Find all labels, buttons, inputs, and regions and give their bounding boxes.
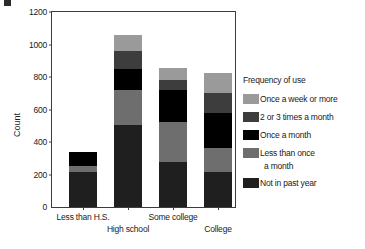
legend-swatch — [243, 94, 259, 104]
legend-label: Once a week or more — [260, 94, 337, 104]
bar-segment — [69, 172, 97, 207]
bar-some-college — [159, 68, 187, 207]
legend-label: Once a month — [260, 130, 311, 140]
y-tick-mark — [49, 142, 52, 143]
bar-segment — [114, 51, 142, 69]
chart-root: Count 020040060080010001200Less than H.S… — [0, 0, 365, 249]
x-tick-label: Some college — [148, 213, 197, 222]
y-tick-mark — [49, 12, 52, 13]
legend-item-list: Once a week or more2 or 3 times a monthO… — [243, 94, 363, 189]
bar-segment — [204, 93, 232, 113]
legend-label: Less than once — [260, 148, 315, 158]
bar-segment — [204, 172, 232, 207]
plot-area: 020040060080010001200Less than H.S.High … — [51, 11, 236, 208]
bar-segment — [114, 125, 142, 207]
legend-label: 2 or 3 times a month — [260, 112, 333, 122]
legend-item[interactable]: 2 or 3 times a month — [243, 112, 363, 122]
y-tick-mark — [49, 174, 52, 175]
legend-swatch — [243, 148, 259, 158]
bar-segment — [114, 90, 142, 125]
legend-item[interactable]: Less than once — [243, 148, 363, 158]
x-tick-label: College — [204, 225, 231, 234]
x-tick-mark — [173, 207, 174, 210]
bar-segment — [159, 90, 187, 122]
legend: Frequency of use Once a week or more2 or… — [243, 76, 363, 196]
bar-segment — [114, 35, 142, 51]
bar-segment — [114, 69, 142, 90]
x-tick-label: Less than H.S. — [57, 213, 110, 222]
y-tick-mark — [49, 109, 52, 110]
y-tick-mark — [49, 44, 52, 45]
x-tick-mark — [128, 207, 129, 210]
bar-high-school — [114, 35, 142, 207]
y-tick-label: 0 — [42, 203, 52, 212]
bar-segment — [159, 68, 187, 80]
legend-swatch — [243, 130, 259, 140]
legend-title: Frequency of use — [243, 76, 363, 85]
corner-artifact — [4, 0, 11, 6]
bar-less-than-h-s — [69, 152, 97, 207]
legend-item[interactable]: Not in past year — [243, 178, 363, 188]
y-tick-mark — [49, 77, 52, 78]
x-tick-mark — [83, 207, 84, 210]
legend-swatch — [243, 178, 259, 188]
bar-segment — [204, 148, 232, 172]
x-tick-label: High school — [107, 225, 149, 234]
bar-segment — [204, 113, 232, 148]
y-axis-title: Count — [12, 112, 22, 136]
legend-item[interactable]: Once a month — [243, 130, 363, 140]
bar-segment — [159, 80, 187, 90]
bar-segment — [204, 73, 232, 93]
legend-label-continuation: a month — [264, 162, 363, 171]
bar-college — [204, 73, 232, 207]
bar-segment — [159, 162, 187, 207]
bar-segment — [159, 122, 187, 163]
bar-segment — [69, 152, 97, 167]
legend-item[interactable]: Once a week or more — [243, 94, 363, 104]
legend-label: Not in past year — [260, 178, 316, 188]
legend-swatch — [243, 112, 259, 122]
x-tick-mark — [218, 207, 219, 210]
